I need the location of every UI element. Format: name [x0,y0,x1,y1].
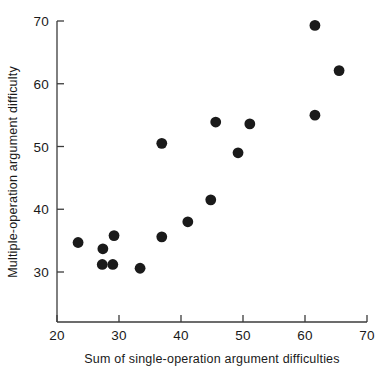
data-point [109,230,120,241]
axis-lines [57,21,367,322]
data-point [156,231,167,242]
y-tick-label-60: 60 [33,77,49,92]
data-point-series [73,20,345,274]
data-point [205,194,216,205]
data-point [73,237,84,248]
data-point [107,259,118,270]
data-point [244,119,255,130]
data-point [97,259,108,270]
y-axis-ticks [57,21,64,272]
x-tick-label-20: 20 [49,328,65,343]
y-axis-title: Multiple-operation argument difficulty [6,66,20,278]
data-point [310,20,321,31]
data-point [310,110,321,121]
x-axis-tick-labels: 203040506070 [49,328,375,343]
data-point [135,263,146,274]
x-axis-ticks [57,315,367,322]
x-tick-label-50: 50 [235,328,251,343]
x-tick-label-40: 40 [173,328,189,343]
data-point [233,147,244,158]
y-tick-label-70: 70 [33,14,49,29]
plot-canvas: 3040506070 203040506070 Sum of single-op… [0,0,389,375]
data-point [182,216,193,227]
data-point [334,65,345,76]
data-point [97,243,108,254]
scatter-plot-figure: 3040506070 203040506070 Sum of single-op… [0,0,389,375]
y-axis-tick-labels: 3040506070 [33,14,49,280]
y-tick-label-30: 30 [33,265,49,280]
x-axis-title: Sum of single-operation argument difficu… [84,352,339,366]
x-tick-label-60: 60 [297,328,313,343]
data-point [210,117,221,128]
x-tick-label-30: 30 [111,328,127,343]
y-tick-label-50: 50 [33,140,49,155]
y-tick-label-40: 40 [33,202,49,217]
data-point [156,138,167,149]
x-tick-label-70: 70 [359,328,375,343]
